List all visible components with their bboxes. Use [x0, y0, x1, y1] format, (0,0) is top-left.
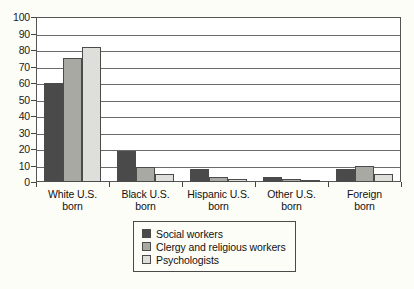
x-axis-ticks [36, 182, 401, 187]
bar [355, 166, 374, 183]
y-axis-tick-mark [31, 34, 36, 35]
x-axis-category-label: Other U.S.born [255, 188, 328, 212]
x-axis-tick-mark [328, 182, 329, 187]
bars-layer [36, 17, 401, 182]
y-axis-tick-mark [31, 100, 36, 101]
bar [190, 169, 209, 182]
x-axis-category-label: Hispanic U.S.born [182, 188, 255, 212]
x-axis-tick-mark [401, 182, 402, 187]
y-axis-tick-mark [31, 50, 36, 51]
x-axis-category-label-line: Other U.S. [255, 188, 328, 200]
y-axis-tick-mark [31, 116, 36, 117]
x-axis-tick-mark [182, 182, 183, 187]
y-axis-tick-mark [31, 149, 36, 150]
bar [82, 47, 101, 182]
y-axis-tick-mark [31, 17, 36, 18]
y-axis-tick-label: 90 [19, 28, 30, 40]
y-axis-tick-label: 50 [19, 94, 30, 106]
x-axis-category-label-line: born [182, 200, 255, 212]
x-axis-category-label-line: born [255, 200, 328, 212]
bar [374, 174, 393, 182]
y-axis-tick-label: 100 [13, 11, 30, 23]
y-axis-tick-label: 0 [24, 176, 30, 188]
x-axis-category-label-line: born [328, 200, 401, 212]
legend-item: Social workers [142, 227, 289, 240]
x-axis-tick-mark [255, 182, 256, 187]
legend-label: Clergy and religious workers [156, 241, 286, 253]
y-axis-tick-mark [31, 166, 36, 167]
bar-group [263, 17, 320, 182]
bar-group [190, 17, 247, 182]
x-axis-labels: White U.S.bornBlack U.S.bornHispanic U.S… [36, 188, 401, 218]
y-axis: 0102030405060708090100 [0, 17, 30, 182]
y-axis-tick-label: 60 [19, 77, 30, 89]
bar [63, 58, 82, 182]
bar-chart-figure: 0102030405060708090100 White U.S.bornBla… [0, 0, 414, 289]
y-axis-tick-label: 10 [19, 160, 30, 172]
bar-group [117, 17, 174, 182]
x-axis-category-label: Foreignborn [328, 188, 401, 212]
x-axis-category-label: White U.S.born [36, 188, 109, 212]
x-axis-category-label-line: Hispanic U.S. [182, 188, 255, 200]
x-axis-category-label-line: White U.S. [36, 188, 109, 200]
y-axis-tick-label: 80 [19, 44, 30, 56]
y-axis-tick-mark [31, 133, 36, 134]
legend-swatch [142, 242, 151, 251]
y-axis-tick-label: 70 [19, 61, 30, 73]
y-axis-tick-mark [31, 182, 36, 183]
y-axis-tick-mark [31, 83, 36, 84]
bar-group [336, 17, 393, 182]
legend-item: Psychologists [142, 253, 289, 266]
bar [136, 167, 155, 182]
y-axis-tick-label: 40 [19, 110, 30, 122]
chart-legend: Social workersClergy and religious worke… [133, 221, 296, 272]
legend-item: Clergy and religious workers [142, 240, 289, 253]
x-axis-tick-mark [36, 182, 37, 187]
x-axis-category-label-line: Black U.S. [109, 188, 182, 200]
bar [336, 169, 355, 182]
y-axis-tick-mark [31, 67, 36, 68]
y-axis-tick-label: 30 [19, 127, 30, 139]
legend-label: Psychologists [156, 254, 219, 266]
x-axis-category-label-line: born [109, 200, 182, 212]
legend-swatch [142, 255, 151, 264]
x-axis-category-label-line: Foreign [328, 188, 401, 200]
x-axis-category-label: Black U.S.born [109, 188, 182, 212]
legend-label: Social workers [156, 228, 223, 240]
x-axis-category-label-line: born [36, 200, 109, 212]
bar [44, 83, 63, 182]
legend-swatch [142, 229, 151, 238]
bar-group [44, 17, 101, 182]
y-axis-tick-label: 20 [19, 143, 30, 155]
x-axis-tick-mark [109, 182, 110, 187]
bar [117, 151, 136, 182]
bar [155, 174, 174, 182]
